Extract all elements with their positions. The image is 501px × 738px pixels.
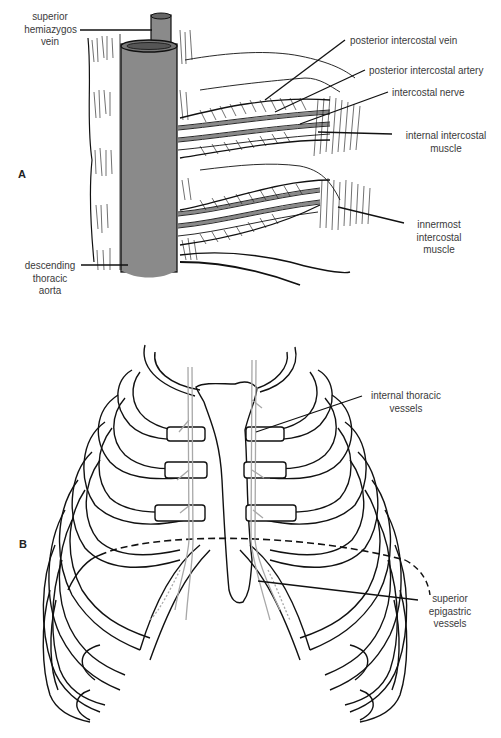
label-posterior-intercostal-vein: posterior intercostal vein: [350, 34, 457, 47]
label-descending-thoracic-aorta: descending thoracic aorta: [22, 259, 77, 297]
label-innermost-intercostal-muscle: innermost intercostal muscle: [409, 218, 469, 256]
label-internal-intercostal-muscle: internal intercostal muscle: [403, 129, 489, 154]
label-posterior-intercostal-artery: posterior intercostal artery: [369, 64, 483, 77]
anatomy-figure: A B superior hemiazygos vein posterior i…: [0, 0, 501, 738]
label-superior-epigastric-vessels: superior epigastric vessels: [424, 592, 476, 630]
label-intercostal-nerve: intercostal nerve: [392, 86, 465, 99]
label-internal-thoracic-vessels: internal thoracic vessels: [370, 389, 442, 414]
label-superior-hemiazygos-vein: superior hemiazygos vein: [24, 10, 76, 48]
panel-letter-b: B: [19, 538, 27, 550]
panel-letter-a: A: [18, 168, 26, 180]
